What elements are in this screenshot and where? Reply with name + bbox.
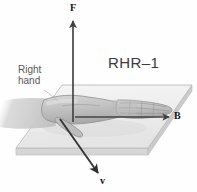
right-hand-label: Righthand (18, 64, 41, 86)
right-hand-label-line1: Right (18, 64, 41, 75)
magnetic-field-vector-label: B (174, 110, 181, 121)
right-hand-label-line2: hand (18, 75, 40, 86)
knuckles (112, 99, 137, 117)
velocity-vector-label: v (100, 175, 105, 186)
figure-canvas: RHR–1 Righthand F B v (0, 0, 197, 192)
rhr-title: RHR–1 (108, 54, 159, 71)
diagram-svg (0, 0, 197, 192)
force-vector-label: F (70, 2, 76, 13)
